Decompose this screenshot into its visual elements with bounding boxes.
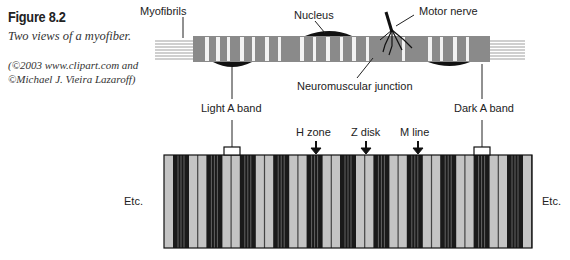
myofiber-diagram (0, 0, 570, 260)
label-myofibrils: Myofibrils (140, 5, 186, 17)
label-m-line: M line (400, 126, 429, 138)
label-etc-left: Etc. (124, 195, 143, 207)
dark-a-band-bracket (474, 147, 490, 155)
label-neuromuscular-junction: Neuromuscular junction (297, 80, 413, 92)
label-motor-nerve: Motor nerve (419, 5, 478, 17)
h-zone-arrow-icon (311, 141, 321, 154)
nucleus-top (305, 31, 352, 36)
z-disk-arrow-icon (361, 141, 371, 154)
label-z-disk: Z disk (351, 126, 380, 138)
sarcomere-band-view (164, 155, 532, 248)
light-a-band-bracket (224, 147, 240, 155)
m-line-arrow-icon (413, 141, 423, 154)
label-h-zone: H zone (296, 126, 331, 138)
nucleus-bottom-right (428, 62, 470, 66)
label-light-a-band: Light A band (201, 102, 262, 114)
label-etc-right: Etc. (542, 195, 561, 207)
nucleus-bottom-left (213, 62, 252, 67)
label-dark-a-band: Dark A band (454, 102, 514, 114)
label-nucleus: Nucleus (294, 9, 334, 21)
